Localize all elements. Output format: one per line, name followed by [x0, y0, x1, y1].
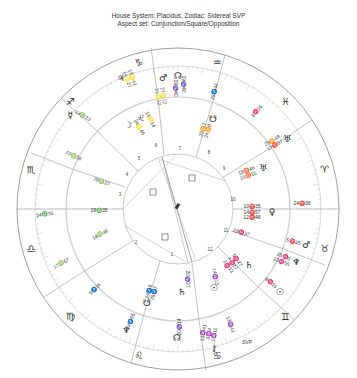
planet-position-label: 1♒11: [210, 327, 219, 342]
square-aspect-icon: [189, 175, 195, 181]
sign-scorpio-icon: ♏: [27, 164, 36, 175]
house-number-8: 10: [230, 197, 236, 202]
cusp-label: 19♎35: [90, 207, 107, 214]
planet-uranus-2-icon: ♅: [283, 134, 291, 144]
inner-aspect-circle: [123, 154, 233, 264]
planet-position-label: 5♈35: [286, 236, 302, 247]
sign-leo-icon: ♌: [134, 350, 143, 361]
planet-position-label: 13♌14: [144, 110, 158, 129]
sign-sagittarius-icon: ♐: [66, 96, 75, 107]
house-number-2: 4: [126, 172, 129, 177]
house-number-5: 7: [179, 146, 182, 151]
planet-moon-icon: ☽: [124, 120, 132, 130]
natal-chart-wheel: ♈♓♒♑♐♏♎♍♌♋♊♉ 345678910111212: [0, 0, 357, 378]
house-number-7: 9: [223, 166, 226, 171]
planet-south-node-icon: ♄: [178, 287, 186, 297]
sign-libra-icon: ♎: [27, 243, 36, 254]
sign-pisces-icon: ♓: [281, 96, 290, 107]
cusp-label: 23♍56: [64, 149, 83, 163]
sign-aquarius-icon: ♒: [213, 57, 222, 68]
planet-leo-planet-icon: ♌: [137, 113, 145, 123]
planet-body-icon: ⚷: [211, 343, 218, 353]
cusp-label: 8♓16: [250, 103, 265, 119]
planet-position-label: 13♍23: [74, 108, 93, 123]
sign-taurus-icon: ♉: [320, 243, 329, 254]
planet-mars-icon: ♀: [269, 207, 276, 217]
cusp-label: 29♍37: [92, 175, 111, 188]
house-numbers: 345678910111212: [119, 143, 236, 257]
planet-sun-2-icon: ♄: [245, 260, 253, 270]
house-number-1: 3: [119, 192, 122, 197]
square-aspect-icon: [150, 189, 156, 195]
house-number-4: 6: [155, 143, 158, 148]
planet-sun-icon: ♆: [292, 257, 300, 267]
house-number-9: 11: [224, 228, 229, 233]
square-aspect-icon: [162, 234, 168, 240]
cusp-label: 24♈38: [293, 200, 310, 207]
house-number-10: 12: [207, 247, 213, 252]
cusp-label: 29♓37: [232, 227, 251, 238]
aspect-line-opposition: [162, 157, 188, 263]
cusp-label: 5♐16: [87, 281, 102, 296]
cusp-label: 19♑40: [172, 79, 179, 96]
sign-capricorn-icon: ♑: [134, 57, 143, 68]
planet-position-label: 24♐55: [124, 312, 137, 331]
sign-aries-icon: ♈: [320, 164, 329, 175]
sign-virgo-icon: ♍: [66, 311, 75, 322]
planet-position-label: 20♑14: [176, 318, 183, 335]
planet-position-label: 19♑40: [180, 75, 187, 92]
sign-gemini-icon: ♊: [281, 311, 290, 322]
planet-position-label: 12♈48: [243, 214, 260, 221]
planet-venus-icon: ♅: [259, 163, 267, 173]
planet-saturn-icon: ☉: [276, 287, 284, 297]
planet-north-node-icon: ☊: [174, 71, 182, 81]
house-number-3: 5: [138, 156, 141, 161]
house-number-12: 2: [135, 240, 138, 245]
planet-position-label: 20♑27: [184, 270, 191, 287]
planet-neptune-icon: ♂: [302, 240, 310, 250]
cusp-label: 18♍46: [91, 227, 110, 241]
cusp-label: 25♐44: [209, 82, 220, 101]
planet-mercury-icon: ☿: [67, 110, 73, 120]
cusp-label: 13♒41: [224, 315, 237, 334]
house-number-6: 8: [208, 150, 211, 155]
svp-mark: SVP: [242, 339, 253, 345]
aspect-glyphs: [150, 175, 195, 240]
planet-uranus-icon: ☋: [209, 114, 217, 124]
planet-mars-top-icon: ♂: [159, 73, 167, 83]
cusp-label: 24♎35: [36, 210, 54, 219]
cusp-label: 17♍57: [52, 256, 71, 270]
